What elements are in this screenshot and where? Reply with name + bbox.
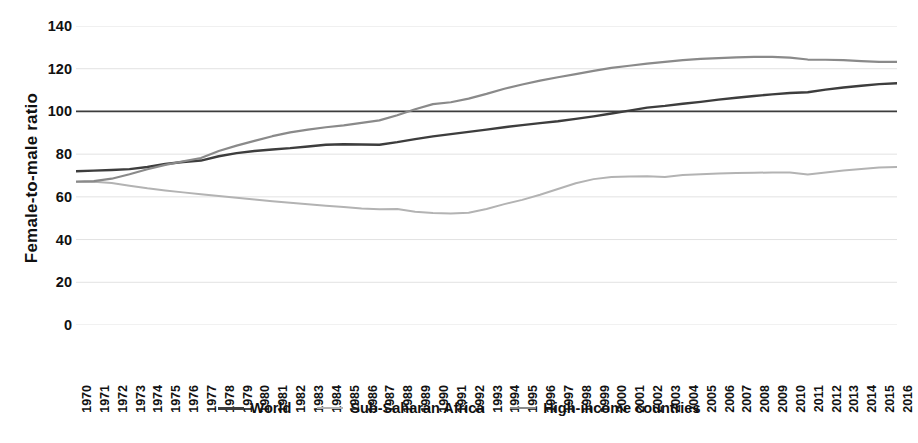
legend-label: World (251, 400, 292, 416)
legend-label: High-income countries (543, 400, 700, 416)
line-chart-svg (76, 26, 897, 325)
legend-line-swatch (510, 407, 536, 409)
series-line-sub-saharan-africa (76, 167, 897, 214)
y-tick-label: 20 (26, 275, 72, 290)
legend-line-swatch (317, 407, 343, 409)
legend-item[interactable]: High-income countries (510, 400, 700, 416)
y-tick-label: 0 (26, 318, 72, 333)
gridlines (76, 26, 897, 325)
chart-legend: WorldSub-Saharan AfricaHigh-income count… (0, 400, 918, 416)
y-axis-tick-labels: 140120100806040200 (20, 0, 72, 443)
y-tick-label: 80 (26, 147, 72, 162)
legend-line-swatch (218, 407, 244, 410)
plot-area (76, 26, 897, 325)
y-tick-label: 60 (26, 190, 72, 205)
legend-label: Sub-Saharan Africa (350, 400, 484, 416)
x-axis-tick-labels: 1970197119721973197419751976197719781979… (76, 327, 897, 397)
y-tick-label: 120 (26, 62, 72, 77)
y-tick-label: 140 (26, 19, 72, 34)
legend-item[interactable]: World (218, 400, 292, 416)
y-tick-label: 40 (26, 233, 72, 248)
y-tick-label: 100 (26, 104, 72, 119)
series-line-high-income-countries (76, 57, 897, 182)
chart-container: Female-to-male ratio 140120100806040200 … (0, 0, 918, 443)
legend-item[interactable]: Sub-Saharan Africa (317, 400, 484, 416)
